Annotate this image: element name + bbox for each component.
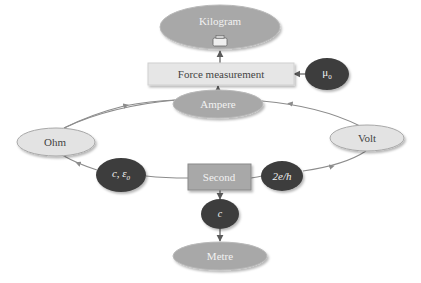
label-ampere: Ampere <box>200 99 235 110</box>
node-kilogram <box>160 5 280 49</box>
label-c-eps0-main: c, ε <box>112 167 127 179</box>
edge-second-ceps0 <box>146 176 188 178</box>
label-mu0: μ0 <box>322 67 331 81</box>
edge-ohm-ampere <box>64 100 176 128</box>
label-2e-h: 2e/h <box>273 171 292 182</box>
label-kilogram: Kilogram <box>199 16 241 27</box>
label-ohm: Ohm <box>44 137 66 148</box>
edge-volt-ampere <box>262 101 360 126</box>
label-force-measurement: Force measurement <box>178 69 264 80</box>
label-c-eps0: c, ε0 <box>112 168 130 182</box>
label-c-eps0-sub: 0 <box>127 174 131 182</box>
label-volt: Volt <box>358 133 376 144</box>
label-c: c <box>218 209 222 219</box>
edge-2eh-volt <box>303 151 366 171</box>
label-metre: Metre <box>207 251 233 262</box>
label-mu0-sub: 0 <box>328 73 332 81</box>
edge-second-2eh <box>251 176 262 178</box>
edge-ceps0-ohm <box>62 155 97 170</box>
label-second: Second <box>203 172 235 183</box>
